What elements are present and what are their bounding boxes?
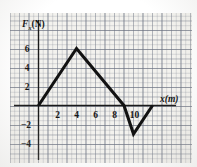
x-tick-label-10: 10 (130, 110, 140, 120)
y-tick-label-minus-2: −2 (21, 120, 31, 130)
force-position-plot: 6 4 2 −2 −4 2 4 6 8 10 F x (N) x(m) (0, 0, 197, 167)
y-tick-label-2: 2 (25, 82, 30, 92)
y-tick-label-4: 4 (25, 63, 30, 73)
x-tick-label-8: 8 (112, 110, 117, 120)
x-tick-label-4: 4 (74, 110, 79, 120)
figure-container: 6 4 2 −2 −4 2 4 6 8 10 F x (N) x(m) (0, 0, 197, 167)
x-tick-label-2: 2 (55, 110, 60, 120)
force-curve (39, 49, 153, 135)
y-axis-label-group: F x (N) (21, 19, 45, 31)
y-tick-label-minus-4: −4 (21, 139, 31, 149)
y-tick-label-6: 6 (25, 44, 30, 54)
x-axis-label: x(m) (159, 94, 178, 105)
x-tick-label-6: 6 (93, 110, 98, 120)
y-axis-label-unit: (N) (32, 19, 45, 30)
